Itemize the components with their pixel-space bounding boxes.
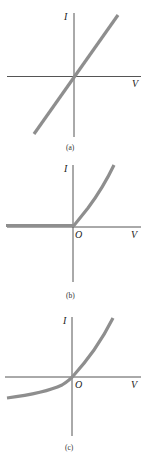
x-axis-label: V	[132, 78, 140, 89]
panel-caption: (a)	[66, 143, 75, 152]
panel-b: I V O (b)	[6, 163, 141, 300]
panel-a: I V (a)	[7, 11, 141, 152]
y-axis-label: I	[63, 163, 68, 174]
panel-caption: (b)	[66, 291, 75, 300]
curve-b	[6, 165, 114, 226]
x-axis-label: V	[131, 229, 139, 240]
y-axis-label: I	[63, 11, 68, 22]
panel-caption: (c)	[65, 443, 74, 452]
x-axis-label: V	[131, 379, 139, 390]
panel-c: I V O (c)	[5, 315, 141, 452]
y-axis-label: I	[62, 315, 67, 326]
figure: I V (a) I V O (b) I V O (c)	[0, 0, 153, 466]
origin-label: O	[75, 379, 82, 390]
origin-label: O	[75, 229, 82, 240]
curve-a	[34, 15, 118, 134]
curve-c	[7, 318, 113, 398]
